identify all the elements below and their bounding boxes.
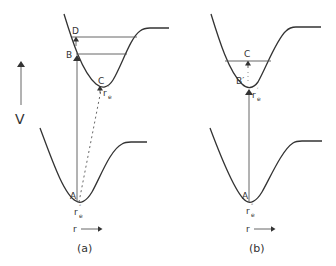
energy-axis: V <box>15 64 25 127</box>
label-re-upper-b: r e ′ <box>252 86 261 102</box>
svg-text:e: e <box>257 95 261 102</box>
svg-text:r: r <box>103 88 107 98</box>
dashed-transition-a <box>79 90 101 202</box>
panel-b: C B′ r e ′ A r e ″ r (b) <box>210 14 322 255</box>
lower-potential-curve-a <box>40 128 147 202</box>
upper-potential-curve-a <box>64 14 169 87</box>
distance-axis-b: r <box>246 224 273 234</box>
svg-text:e: e <box>251 211 255 218</box>
label-b: B <box>66 50 72 60</box>
lower-potential-curve-b <box>210 128 322 202</box>
caption-a: (a) <box>77 242 92 255</box>
svg-text:r: r <box>252 90 256 100</box>
upper-potential-curve-b <box>211 14 321 88</box>
label-d: D <box>72 26 79 36</box>
label-a: A <box>70 191 77 201</box>
svg-text:r: r <box>246 206 250 216</box>
svg-text:r: r <box>74 207 78 217</box>
caption-b: (b) <box>249 242 265 255</box>
label-re-lower-b: r e ″ <box>246 202 255 218</box>
label-c-b: C <box>244 49 250 59</box>
svg-text:′: ′ <box>257 86 259 93</box>
svg-text:r: r <box>73 224 77 234</box>
svg-text:e: e <box>79 212 83 219</box>
svg-text:r: r <box>246 224 250 234</box>
energy-axis-label: V <box>15 111 25 127</box>
label-re-lower-a: r e ″ <box>74 203 83 219</box>
label-a-b: A <box>242 191 249 201</box>
label-b-b: B′ <box>236 76 244 86</box>
panel-a: D B C r e ′ A r e ″ r (a) <box>40 14 169 255</box>
distance-axis-a: r <box>73 224 100 234</box>
svg-text:e: e <box>108 93 112 100</box>
svg-text:′: ′ <box>108 84 110 91</box>
svg-text:″: ″ <box>79 203 82 210</box>
svg-text:″: ″ <box>251 202 254 209</box>
franck-condon-diagram: V D B C r e ′ A r e ″ r <box>0 0 336 266</box>
label-c: C <box>98 76 104 86</box>
